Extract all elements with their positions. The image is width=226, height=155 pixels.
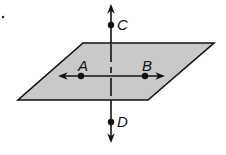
plane (18, 43, 214, 100)
label-a: A (77, 57, 88, 74)
point-c (108, 22, 114, 28)
stray-dot (2, 16, 4, 18)
point-d (108, 119, 114, 125)
geometry-diagram: A B C D (0, 0, 226, 155)
label-b: B (142, 57, 152, 74)
label-c: C (117, 16, 128, 33)
label-d: D (117, 113, 128, 130)
